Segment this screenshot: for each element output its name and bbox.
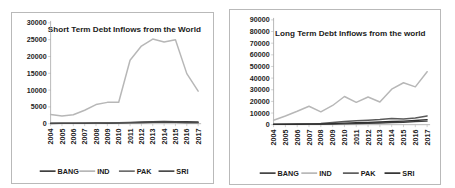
y-axis-tick-label: 40000 [250, 74, 270, 82]
chart-title: Short Term Debt Inflows from the World [48, 24, 201, 33]
chart-title: Long Term Debt Inflows from the world [275, 28, 426, 37]
legend-label-bang[interactable]: BANG [278, 168, 300, 177]
x-axis-tick-label: 2006 [70, 128, 78, 144]
y-axis-tick-label: 80000 [250, 28, 270, 36]
y-axis-tick-label: 60000 [250, 51, 270, 59]
x-axis-tick-label: 2015 [400, 129, 408, 145]
y-axis-tick-label: 70000 [250, 39, 270, 47]
x-axis-tick-label: 2012 [138, 128, 146, 144]
x-axis-tick-label: 2011 [353, 129, 361, 144]
x-axis-tick-label: 2005 [59, 128, 67, 144]
legend-label-sri[interactable]: SRI [176, 166, 188, 175]
x-axis-tick-label: 2006 [294, 129, 302, 145]
y-axis-tick-label: 25000 [27, 36, 47, 44]
short-term-debt-chart: Short Term Debt Inflows from the World05… [11, 12, 214, 184]
x-axis-tick-label: 2004 [270, 129, 278, 145]
y-axis-tick-label: 15000 [27, 69, 47, 77]
charts-page: Short Term Debt Inflows from the World05… [0, 0, 455, 188]
x-axis-tick-label: 2007 [81, 128, 89, 144]
y-axis-tick-label: 5000 [31, 103, 47, 111]
x-axis-tick-label: 2010 [341, 129, 349, 145]
long-term-chart-svg: Long Term Debt Inflows from the world010… [230, 10, 440, 184]
series-line-ind [51, 39, 199, 116]
x-axis-tick-label: 2007 [306, 129, 314, 145]
y-axis-tick-label: 90000 [250, 16, 270, 24]
x-axis-tick-label: 2005 [282, 129, 290, 145]
series-line-ind [274, 71, 428, 120]
x-axis-tick-label: 2017 [195, 128, 203, 144]
y-axis-tick-label: 50000 [250, 63, 270, 71]
x-axis-tick-label: 2014 [388, 129, 396, 145]
x-axis-tick-label: 2013 [149, 128, 157, 144]
long-term-debt-chart: Long Term Debt Inflows from the world010… [229, 9, 441, 185]
y-axis-tick-label: 0 [266, 121, 270, 129]
legend-label-pak[interactable]: PAK [137, 166, 153, 175]
y-axis-tick-label: 0 [43, 120, 47, 128]
x-axis-tick-label: 2011 [127, 128, 135, 143]
y-axis-tick-label: 20000 [250, 97, 270, 105]
x-axis-tick-label: 2012 [365, 129, 373, 145]
x-axis-tick-label: 2017 [424, 129, 432, 145]
legend-label-sri[interactable]: SRI [402, 168, 414, 177]
y-axis-tick-label: 10000 [250, 109, 270, 117]
x-axis-tick-label: 2015 [172, 128, 180, 144]
x-axis-tick-label: 2014 [161, 128, 169, 144]
x-axis-tick-label: 2016 [183, 128, 191, 144]
legend-label-ind[interactable]: IND [319, 168, 331, 177]
y-axis-tick-label: 30000 [250, 86, 270, 94]
x-axis-tick-label: 2016 [412, 129, 420, 145]
legend-label-pak[interactable]: PAK [361, 168, 377, 177]
x-axis-tick-label: 2013 [376, 129, 384, 145]
x-axis-tick-label: 2010 [115, 128, 123, 144]
x-axis-tick-label: 2004 [47, 128, 55, 144]
short-term-chart-svg: Short Term Debt Inflows from the World05… [12, 13, 213, 183]
x-axis-tick-label: 2009 [329, 129, 337, 145]
y-axis-tick-label: 30000 [27, 19, 47, 27]
legend-label-ind[interactable]: IND [97, 166, 109, 175]
y-axis-tick-label: 10000 [27, 86, 47, 94]
legend-label-bang[interactable]: BANG [58, 166, 80, 175]
x-axis-tick-label: 2008 [93, 128, 101, 144]
y-axis-tick-label: 20000 [27, 53, 47, 61]
x-axis-tick-label: 2009 [104, 128, 112, 144]
x-axis-tick-label: 2008 [317, 129, 325, 145]
